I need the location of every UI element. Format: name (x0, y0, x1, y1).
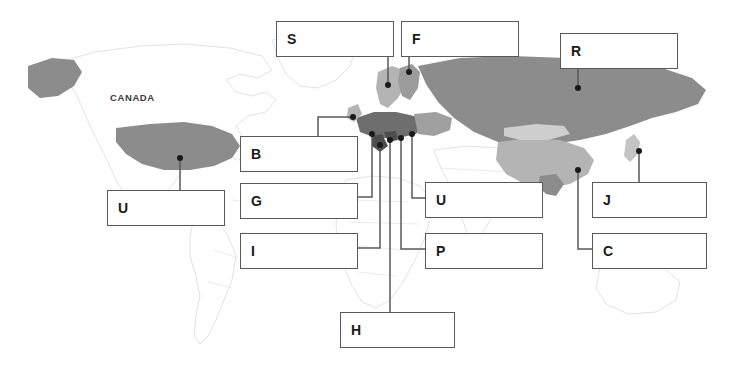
callout-box-r[interactable]: R (560, 33, 678, 69)
callout-letter-p: P (426, 244, 445, 258)
callout-letter-r: R (561, 44, 581, 58)
leader-dot-b (350, 114, 356, 120)
leader-dot-j (636, 148, 642, 154)
callout-letter-f: F (402, 32, 421, 46)
leader-dot-f (406, 69, 412, 75)
leader-dot-i (377, 142, 383, 148)
leader-line-u_mid (412, 134, 425, 198)
callout-letter-s: S (277, 32, 296, 46)
callout-letter-u-usa: U (108, 201, 128, 215)
callout-box-s[interactable]: S (276, 21, 394, 57)
callout-letter-h: H (341, 323, 361, 337)
callout-box-c[interactable]: C (592, 233, 707, 269)
callout-box-u-mid[interactable]: U (425, 182, 543, 218)
leader-dot-r (575, 85, 581, 91)
leader-dot-p (398, 135, 404, 141)
world-map-figure: CANADA S F R B U G I U P J C (0, 0, 742, 371)
callout-box-u-usa[interactable]: U (107, 190, 225, 226)
callout-box-i[interactable]: I (240, 233, 358, 269)
leader-line-p (401, 138, 425, 249)
callout-box-h[interactable]: H (340, 312, 455, 348)
leader-dot-g (369, 131, 375, 137)
callout-letter-j: J (593, 193, 611, 207)
callout-box-p[interactable]: P (425, 233, 543, 269)
leader-dot-s (385, 82, 391, 88)
callout-box-b[interactable]: B (240, 136, 358, 172)
leader-dot-c (575, 167, 581, 173)
callout-box-g[interactable]: G (240, 183, 358, 219)
callout-letter-u-mid: U (426, 193, 446, 207)
callout-box-j[interactable]: J (592, 182, 707, 218)
leader-dot-u_mid (409, 131, 415, 137)
callout-letter-b: B (241, 147, 261, 161)
callout-letter-g: G (241, 194, 262, 208)
leader-dot-h (387, 137, 393, 143)
callout-box-f[interactable]: F (401, 21, 519, 57)
callout-letter-i: I (241, 244, 255, 258)
callout-letter-c: C (593, 244, 613, 258)
leader-line-g (358, 134, 372, 197)
leader-line-b (318, 117, 353, 136)
leader-dot-u_usa (177, 155, 183, 161)
leader-line-c (578, 170, 592, 249)
map-label-canada: CANADA (110, 92, 155, 103)
